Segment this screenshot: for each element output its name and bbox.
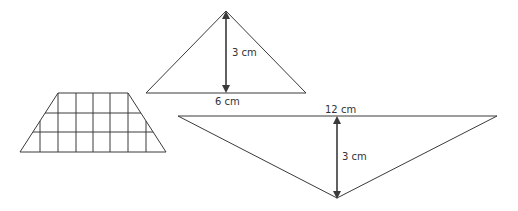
large-triangle xyxy=(178,116,497,198)
small-triangle-base-label: 6 cm xyxy=(215,96,240,107)
large-triangle-base-label: 12 cm xyxy=(325,104,356,115)
small-triangle xyxy=(146,11,306,93)
diagram-canvas: 3 cm 6 cm 12 cm 3 cm xyxy=(0,0,518,211)
large-triangle-height-label: 3 cm xyxy=(342,151,367,162)
small-triangle-height-label: 3 cm xyxy=(232,47,257,58)
trapezoid-grid xyxy=(20,93,166,152)
